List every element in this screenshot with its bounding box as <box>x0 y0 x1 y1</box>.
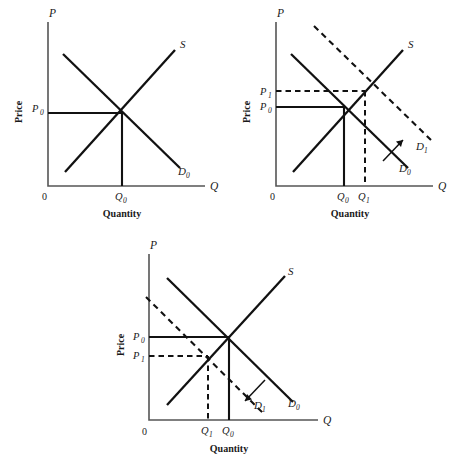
panel-c-demand0-label: D <box>287 397 296 409</box>
panel-a-origin-label: 0 <box>42 191 47 202</box>
panel-a-demand0-label: D <box>177 165 186 177</box>
panel-b-y-axis-title: Price <box>241 100 252 123</box>
panel-c-y-axis-letter: P <box>149 239 157 251</box>
panel-a-x-axis-title: Quantity <box>103 208 141 219</box>
panel-c-q1-sub: 1 <box>209 430 213 439</box>
panel-a-supply-label: S <box>180 38 186 50</box>
panel-c-svg: P Q S D 0 D 1 P 0 P 1 Q 1 Q 0 0 Price Qu… <box>110 232 350 463</box>
panel-b-p0-sub: 0 <box>268 106 272 115</box>
panel-c-p1-label: P <box>132 350 140 361</box>
panel-b-svg: P Q S D 0 D 1 P 1 P 0 Q 0 Q 1 0 Price Qu… <box>227 0 454 232</box>
panel-c-supply-label: S <box>288 265 294 277</box>
panel-b-p1-label: P <box>259 86 267 97</box>
panel-b-x-axis-letter: Q <box>438 180 447 192</box>
panel-b-demand0-curve <box>291 54 408 168</box>
panel-c-x-axis-title: Quantity <box>210 443 248 454</box>
panel-a-demand0-sub: 0 <box>186 171 190 180</box>
panel-a-y-axis-letter: P <box>48 7 56 19</box>
panel-c-p0-sub: 0 <box>141 336 145 345</box>
panel-c-demand1-sub: 1 <box>262 405 266 414</box>
panel-c-x-axis-letter: Q <box>323 414 332 426</box>
panel-a-y-axis-title: Price <box>13 100 24 123</box>
panel-b-q1-label: Q <box>358 191 366 202</box>
panel-a-p0-label: P <box>31 103 39 114</box>
panel-b-demand1-sub: 1 <box>424 146 428 155</box>
panel-a-q0-sub: 0 <box>123 196 127 205</box>
panel-b-q0-label: Q <box>337 191 345 202</box>
panel-a-p0-sub: 0 <box>40 108 44 117</box>
panel-c-p0-label: P <box>132 331 140 342</box>
supply-demand-chart-a: P Q S D 0 P 0 Q 0 0 Price Quantity <box>0 0 227 232</box>
panel-c-q0-label: Q <box>222 425 230 436</box>
panel-b-demand0-sub: 0 <box>407 168 411 177</box>
panel-b-q1-sub: 1 <box>366 196 370 205</box>
panel-c-p1-sub: 1 <box>141 355 145 364</box>
panel-b-origin-label: 0 <box>270 191 275 202</box>
panel-c-q0-sub: 0 <box>230 430 234 439</box>
panel-b-supply-label: S <box>408 38 414 50</box>
panel-c-demand0-sub: 0 <box>296 403 300 412</box>
panel-a-x-axis-letter: Q <box>210 180 219 192</box>
panel-b-p0-label: P <box>259 101 267 112</box>
panel-b-demand1-label: D <box>415 140 424 152</box>
panel-b-x-axis-title: Quantity <box>331 208 369 219</box>
panel-a-q0-label: Q <box>115 191 123 202</box>
panel-a-svg: P Q S D 0 P 0 Q 0 0 Price Quantity <box>0 0 227 232</box>
supply-demand-chart-c: P Q S D 0 D 1 P 0 P 1 Q 1 Q 0 0 Price Qu… <box>110 232 350 463</box>
supply-demand-chart-b: P Q S D 0 D 1 P 1 P 0 Q 0 Q 1 0 Price Qu… <box>227 0 454 232</box>
panel-c-y-axis-title: Price <box>115 333 126 356</box>
panel-b-demand0-label: D <box>398 162 407 174</box>
panel-c-origin-label: 0 <box>142 426 147 437</box>
panel-b-q0-sub: 0 <box>345 196 349 205</box>
panel-c-demand1-label: D <box>253 399 262 411</box>
panel-c-q1-label: Q <box>201 425 209 436</box>
panel-b-p1-sub: 1 <box>268 91 272 100</box>
panel-b-y-axis-letter: P <box>276 7 284 19</box>
